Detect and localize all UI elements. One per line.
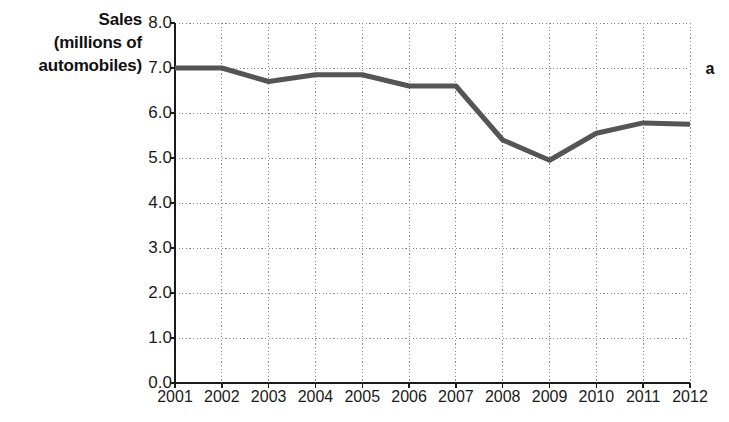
horizontal-gridlines — [175, 23, 690, 338]
y-axis-tick-label: 6.0 — [132, 103, 172, 123]
y-axis-tick-label: 4.0 — [132, 193, 172, 213]
data-series-line — [175, 68, 690, 160]
y-axis-tick-label: 8.0 — [132, 13, 172, 33]
y-axis-tick-labels: 0.01.02.03.04.05.06.07.08.0 — [132, 0, 172, 422]
x-axis-tick-labels: 2001200220032004200520062007200820092010… — [0, 388, 729, 418]
y-axis-tick-label: 1.0 — [132, 328, 172, 348]
y-axis-tick-label: 2.0 — [132, 283, 172, 303]
y-axis-tick-label: 5.0 — [132, 148, 172, 168]
panel-label: a — [706, 60, 715, 78]
plot-area — [0, 0, 729, 422]
y-axis-tick-label: 3.0 — [132, 238, 172, 258]
y-axis-tick-label: 7.0 — [132, 58, 172, 78]
x-axis-tick-label: 2012 — [660, 388, 720, 406]
chart-figure: Sales (millions of automobiles) 0.01.02.… — [0, 0, 729, 422]
